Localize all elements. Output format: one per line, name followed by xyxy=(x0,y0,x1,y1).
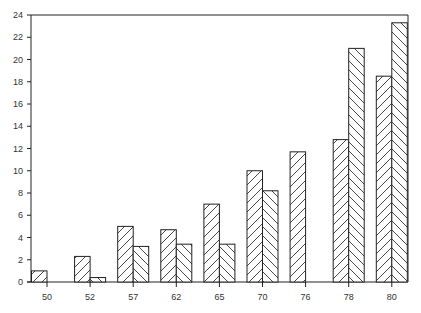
y-tick-label: 4 xyxy=(18,233,23,243)
x-tick-label: 76 xyxy=(301,292,311,302)
x-tick-label: 80 xyxy=(387,292,397,302)
y-tick-label: 20 xyxy=(13,55,23,65)
bar-series-1-65 xyxy=(204,204,220,282)
bar-series-1-57 xyxy=(118,226,134,282)
y-tick-label: 0 xyxy=(18,277,23,287)
bar-series-2-70 xyxy=(263,191,279,282)
bar-series-1-52 xyxy=(75,256,91,282)
y-tick-label: 8 xyxy=(18,188,23,198)
x-axis: 505257626570767880 xyxy=(42,282,397,302)
y-tick-label: 2 xyxy=(18,255,23,265)
bar-series-1-50 xyxy=(32,271,48,282)
y-tick-label: 22 xyxy=(13,32,23,42)
x-tick-label: 78 xyxy=(344,292,354,302)
bar-series-2-78 xyxy=(349,48,365,282)
x-tick-label: 50 xyxy=(42,292,52,302)
bar-series-2-57 xyxy=(133,246,149,282)
bar-series-1-62 xyxy=(161,230,177,282)
x-tick-label: 62 xyxy=(171,292,181,302)
y-tick-label: 10 xyxy=(13,166,23,176)
bar-series-2-80 xyxy=(392,23,408,282)
y-tick-label: 18 xyxy=(13,77,23,87)
bar-series-2-52 xyxy=(90,278,106,282)
bar-series-1-78 xyxy=(333,140,349,282)
bar-series-1-76 xyxy=(290,152,306,282)
x-tick-label: 70 xyxy=(257,292,267,302)
y-tick-label: 12 xyxy=(13,144,23,154)
bar-chart: 024681012141618202224 505257626570767880 xyxy=(0,0,421,313)
bars-group xyxy=(32,23,408,282)
bar-series-2-65 xyxy=(219,244,235,282)
y-tick-label: 16 xyxy=(13,99,23,109)
y-tick-label: 14 xyxy=(13,121,23,131)
x-tick-label: 52 xyxy=(85,292,95,302)
y-axis: 024681012141618202224 xyxy=(13,10,31,287)
y-tick-label: 24 xyxy=(13,10,23,20)
y-tick-label: 6 xyxy=(18,210,23,220)
x-tick-label: 65 xyxy=(214,292,224,302)
bar-series-1-70 xyxy=(247,171,263,282)
bar-series-1-80 xyxy=(376,76,392,282)
x-tick-label: 57 xyxy=(128,292,138,302)
bar-series-2-62 xyxy=(176,244,192,282)
